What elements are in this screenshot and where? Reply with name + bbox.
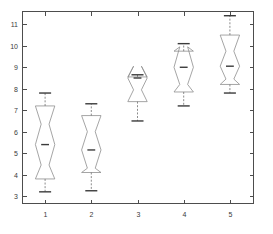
x-tick-label: 5 — [229, 211, 233, 218]
x-tick-label: 1 — [44, 211, 48, 218]
boxplot-canvas: 34567891011 12345 — [0, 0, 273, 234]
y-tick-label: 4 — [14, 172, 18, 179]
boxplot-figure: 34567891011 12345 — [0, 0, 273, 234]
y-tick-label: 6 — [14, 129, 18, 136]
x-tick-label: 3 — [137, 211, 141, 218]
y-tick-label: 3 — [14, 193, 18, 200]
y-tick-label: 7 — [14, 107, 18, 114]
y-tick-label: 10 — [10, 43, 18, 50]
y-tick-label: 9 — [14, 64, 18, 71]
y-tick-label: 11 — [11, 21, 18, 28]
y-tick-label: 8 — [14, 86, 18, 93]
x-tick-label: 2 — [90, 211, 94, 218]
y-tick-label: 5 — [14, 150, 18, 157]
x-tick-label: 4 — [183, 211, 187, 218]
